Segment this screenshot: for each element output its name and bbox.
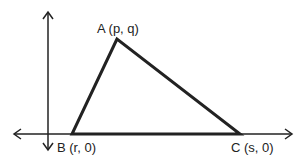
triangle-abc [72, 39, 240, 134]
y-axis [43, 12, 53, 150]
label-point-b: B (r, 0) [57, 140, 96, 155]
triangle-diagram: A (p, q) B (r, 0) C (s, 0) [0, 0, 302, 164]
label-point-a: A (p, q) [97, 21, 139, 36]
label-point-c: C (s, 0) [231, 140, 274, 155]
